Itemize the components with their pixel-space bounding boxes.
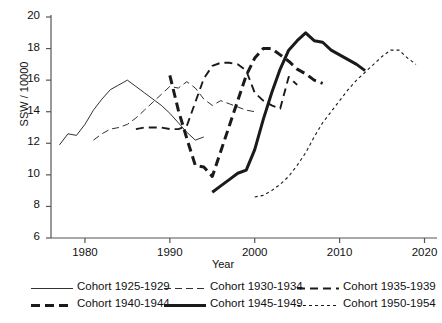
legend-item-2[interactable]: Cohort 1935-1939	[296, 280, 429, 292]
series-line-3	[170, 49, 323, 177]
series-line-0	[59, 80, 203, 145]
legend-item-0[interactable]: Cohort 1925-1929	[30, 280, 163, 292]
chart-container: SSW / 10000 Year 20181614121086 19801990…	[0, 0, 442, 323]
plot-area	[0, 0, 442, 323]
legend-row: Cohort 1940-1944Cohort 1945-1949Cohort 1…	[30, 294, 430, 311]
legend-swatch-1	[163, 280, 207, 291]
legend-label-4: Cohort 1945-1949	[210, 297, 303, 309]
legend-item-1[interactable]: Cohort 1930-1934	[163, 280, 296, 292]
legend-label-1: Cohort 1930-1934	[210, 280, 303, 292]
legend-swatch-0	[30, 280, 74, 291]
legend-item-5[interactable]: Cohort 1950-1954	[296, 297, 429, 309]
legend-item-4[interactable]: Cohort 1945-1949	[163, 297, 296, 309]
legend-item-3[interactable]: Cohort 1940-1944	[30, 297, 163, 309]
legend-swatch-4	[163, 297, 207, 308]
data-series-group	[59, 33, 416, 197]
legend-label-3: Cohort 1940-1944	[77, 297, 170, 309]
legend-swatch-5	[296, 297, 340, 308]
legend-swatch-2	[296, 280, 340, 291]
legend-label-0: Cohort 1925-1929	[77, 280, 170, 292]
chart-legend: Cohort 1925-1929Cohort 1930-1934Cohort 1…	[30, 277, 430, 311]
legend-label-2: Cohort 1935-1939	[343, 280, 436, 292]
legend-row: Cohort 1925-1929Cohort 1930-1934Cohort 1…	[30, 277, 430, 294]
legend-swatch-3	[30, 297, 74, 308]
axis-lines	[46, 15, 437, 243]
legend-label-5: Cohort 1950-1954	[343, 297, 436, 309]
